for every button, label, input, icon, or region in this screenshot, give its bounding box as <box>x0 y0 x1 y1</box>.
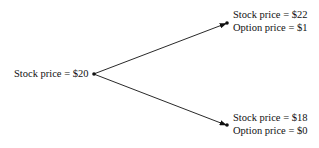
down-stock-price: Stock price = $18 <box>233 111 307 124</box>
up-node <box>225 21 229 25</box>
down-node <box>225 123 229 127</box>
down-option-price: Option price = $0 <box>233 124 307 137</box>
up-stock-price: Stock price = $22 <box>233 8 307 21</box>
root-node <box>92 72 96 76</box>
down-arrow <box>95 75 226 126</box>
up-arrow <box>95 24 226 74</box>
up-option-price: Option price = $1 <box>233 21 307 34</box>
root-stock-price: Stock price = $20 <box>14 67 88 80</box>
